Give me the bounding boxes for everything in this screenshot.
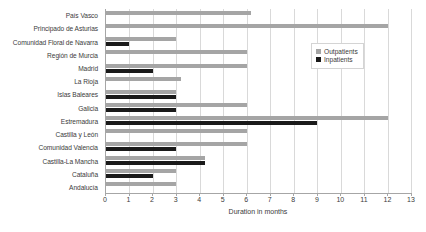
x-tick-label: 9 — [315, 196, 319, 203]
category-label: Castilla-La Mancha — [0, 154, 101, 167]
x-tick-label: 4 — [197, 196, 201, 203]
bar-outpatients — [106, 169, 176, 173]
plot-area — [105, 9, 411, 194]
legend-swatch-icon — [316, 57, 321, 62]
bar-inpatients — [106, 161, 205, 165]
bar-outpatients — [106, 77, 181, 81]
x-tick-label: 0 — [103, 196, 107, 203]
category-label: Islas Baleares — [0, 88, 101, 101]
category-label: Región de Murcia — [0, 49, 101, 62]
category-label: Estremadura — [0, 115, 101, 128]
category-label: Madrid — [0, 62, 101, 75]
bar-row — [106, 48, 411, 61]
bar-inpatients — [106, 95, 176, 99]
bar-row — [106, 114, 411, 127]
x-tick-label: 11 — [360, 196, 367, 203]
x-tick-label: 7 — [268, 196, 272, 203]
legend-item[interactable]: Inpatients — [316, 57, 358, 64]
bar-row — [106, 62, 411, 75]
bar-outpatients — [106, 90, 176, 94]
legend-swatch-icon — [316, 49, 321, 54]
bar-outpatients — [106, 129, 247, 133]
bar-row — [106, 75, 411, 88]
bar-outpatients — [106, 11, 251, 15]
bar-row — [106, 127, 411, 140]
x-tick-label: 6 — [244, 196, 248, 203]
category-axis-labels: País VascoPrincipado de AsturiasComunida… — [0, 9, 101, 194]
bar-outpatients — [106, 182, 176, 186]
x-axis-title: Duration in months — [105, 208, 411, 215]
bar-row — [106, 167, 411, 180]
x-tick-label: 1 — [127, 196, 131, 203]
bar-row — [106, 88, 411, 101]
bar-inpatients — [106, 174, 153, 178]
bar-rows — [106, 9, 411, 193]
bar-row — [106, 140, 411, 153]
bar-inpatients — [106, 108, 176, 112]
category-label: Castilla y León — [0, 128, 101, 141]
bar-outpatients — [106, 64, 247, 68]
x-axis-ticks: 012345678910111213 — [105, 196, 411, 207]
bar-outpatients — [106, 24, 388, 28]
legend: OutpatientsInpatients — [311, 43, 364, 69]
category-label: Comunidad Valencia — [0, 141, 101, 154]
bar-outpatients — [106, 103, 247, 107]
x-tick-label: 13 — [407, 196, 415, 203]
bar-row — [106, 180, 411, 193]
x-tick-label: 12 — [384, 196, 392, 203]
bar-inpatients — [106, 42, 129, 46]
bar-row — [106, 22, 411, 35]
legend-label: Inpatients — [324, 57, 353, 64]
x-tick-label: 8 — [291, 196, 295, 203]
bar-outpatients — [106, 142, 247, 146]
x-tick-label: 5 — [221, 196, 225, 203]
x-tick-label: 3 — [174, 196, 178, 203]
legend-label: Outpatients — [324, 49, 358, 56]
category-label: Principado de Asturias — [0, 22, 101, 35]
gridline — [411, 9, 412, 193]
category-label: La Rioja — [0, 75, 101, 88]
bar-chart: País VascoPrincipado de AsturiasComunida… — [0, 0, 426, 232]
legend-item[interactable]: Outpatients — [316, 49, 358, 56]
category-label: Comunidad Floral de Navarra — [0, 35, 101, 48]
category-label: País Vasco — [0, 9, 101, 22]
category-label: Cataluña — [0, 168, 101, 181]
x-tick-label: 2 — [150, 196, 154, 203]
bar-outpatients — [106, 156, 205, 160]
bar-row — [106, 35, 411, 48]
bar-outpatients — [106, 50, 247, 54]
bar-outpatients — [106, 116, 388, 120]
bar-inpatients — [106, 121, 317, 125]
bar-inpatients — [106, 147, 176, 151]
category-label: Galicia — [0, 102, 101, 115]
bar-row — [106, 9, 411, 22]
bar-row — [106, 101, 411, 114]
bar-inpatients — [106, 69, 153, 73]
category-label: Andalucía — [0, 181, 101, 194]
bar-row — [106, 154, 411, 167]
bar-outpatients — [106, 37, 176, 41]
x-tick-label: 10 — [336, 196, 344, 203]
